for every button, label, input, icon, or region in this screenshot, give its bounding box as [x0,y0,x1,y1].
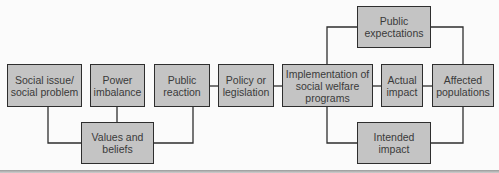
edge-implementation-expectations [327,27,357,64]
node-social-issue: Social issue/ social problem [7,64,82,107]
node-label: Affected populations [435,74,491,98]
page-edge-divider [0,170,499,173]
node-policy-legislation: Policy or legislation [218,64,274,107]
node-label: Policy or legislation [221,74,271,98]
edge-expectations-affected [431,27,463,64]
edge-social-issue-values [48,107,81,143]
node-values-beliefs: Values and beliefs [81,122,154,164]
node-label: Social issue/ social problem [10,74,79,98]
node-label: Actual impact [384,74,420,98]
node-intended-impact: Intended impact [357,122,431,164]
node-implementation: Implementation of social welfare program… [282,64,373,107]
node-public-expectations: Public expectations [357,6,431,48]
node-label: Power imbalance [93,74,142,98]
edge-intended-affected [431,107,463,143]
node-public-reaction: Public reaction [154,64,210,107]
node-label: Public expectations [360,15,428,39]
edge-public-reaction-values [154,107,193,143]
node-actual-impact: Actual impact [381,64,423,107]
node-power-imbalance: Power imbalance [90,64,145,107]
node-label: Intended impact [360,131,428,155]
node-label: Values and beliefs [84,131,151,155]
edge-implementation-intended [327,107,357,143]
node-label: Implementation of social welfare program… [285,68,370,104]
node-label: Public reaction [157,74,207,98]
node-affected-populations: Affected populations [432,64,494,107]
